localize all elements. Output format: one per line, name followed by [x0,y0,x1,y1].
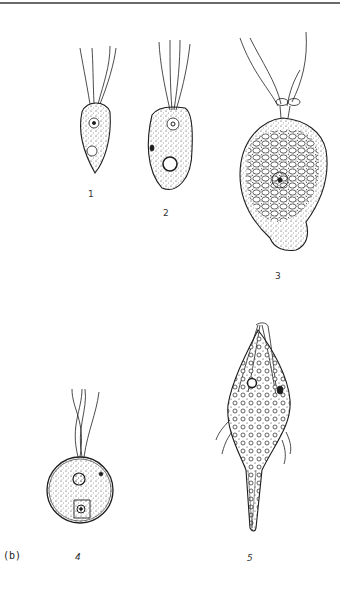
panel-label: (b) [3,551,21,561]
organism-5 [216,323,291,531]
organism-label-5: 5 [247,554,253,563]
organism-2 [148,40,192,189]
organism-1 [80,46,116,173]
organism-label-1: 1 [88,190,94,199]
organism-label-3: 3 [275,272,281,281]
organism-4 [47,389,113,523]
organism-3 [240,32,327,251]
organism-label-2: 2 [163,209,169,218]
organism-label-4: 4 [75,553,81,562]
protist-illustration [0,0,340,590]
